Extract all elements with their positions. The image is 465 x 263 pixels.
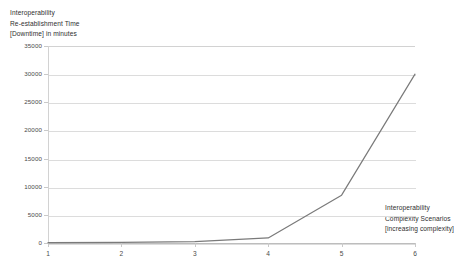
series-layer xyxy=(0,0,465,263)
chart-container: Interoperability Re-establishment Time [… xyxy=(0,0,465,263)
series-line xyxy=(48,74,415,243)
